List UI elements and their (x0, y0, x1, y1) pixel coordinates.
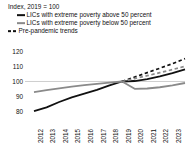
x-tick-label-2018: 2018 (112, 129, 119, 143)
legend-item-above-50: LICs with extreme poverty above 50 perce… (8, 11, 188, 19)
y-tick-label-100: 100 (1, 78, 23, 85)
x-tick-label-2012: 2012 (37, 129, 44, 143)
x-tick-label-2019: 2019 (125, 129, 132, 143)
y-tick-label-110: 110 (1, 63, 23, 70)
y-tick-label-120: 120 (1, 48, 23, 55)
chart-title: Index, 2019 = 100 (8, 3, 188, 11)
x-tick-label-2022: 2022 (162, 129, 169, 143)
plot-svg (0, 44, 188, 151)
x-tick-label-2016: 2016 (87, 129, 94, 143)
x-tick-label-2015: 2015 (74, 129, 81, 143)
chart-header: Index, 2019 = 100 LICs with extreme pove… (8, 3, 188, 35)
y-tick-label-90: 90 (1, 93, 23, 100)
series-line-3 (122, 66, 185, 81)
plot-area: 8090100110120 20122013201420152016201720… (0, 44, 188, 151)
x-tick-label-2023: 2023 (175, 129, 182, 143)
chart-container: Index, 2019 = 100 LICs with extreme pove… (0, 0, 188, 151)
legend-item-below-50: LICs with extreme poverty below 50 perce… (8, 19, 188, 27)
x-tick-label-2014: 2014 (62, 129, 69, 143)
x-tick-label-2020: 2020 (137, 129, 144, 143)
solid-line-black-icon (17, 11, 25, 19)
y-tick-label-80: 80 (1, 108, 23, 115)
solid-line-gray-icon (17, 19, 25, 27)
legend-label-below-50: LICs with extreme poverty below 50 perce… (27, 19, 151, 27)
series-line-0 (34, 69, 185, 111)
legend-label-pre-pandemic: Pre-pandemic trends (19, 27, 78, 35)
x-tick-label-2021: 2021 (150, 129, 157, 143)
series-line-1 (34, 81, 185, 92)
legend-item-pre-pandemic: Pre-pandemic trends (8, 27, 188, 35)
x-tick-label-2017: 2017 (100, 129, 107, 143)
dashed-line-icon (8, 27, 17, 35)
legend-label-above-50: LICs with extreme poverty above 50 perce… (27, 11, 152, 19)
x-tick-label-2013: 2013 (49, 129, 56, 143)
